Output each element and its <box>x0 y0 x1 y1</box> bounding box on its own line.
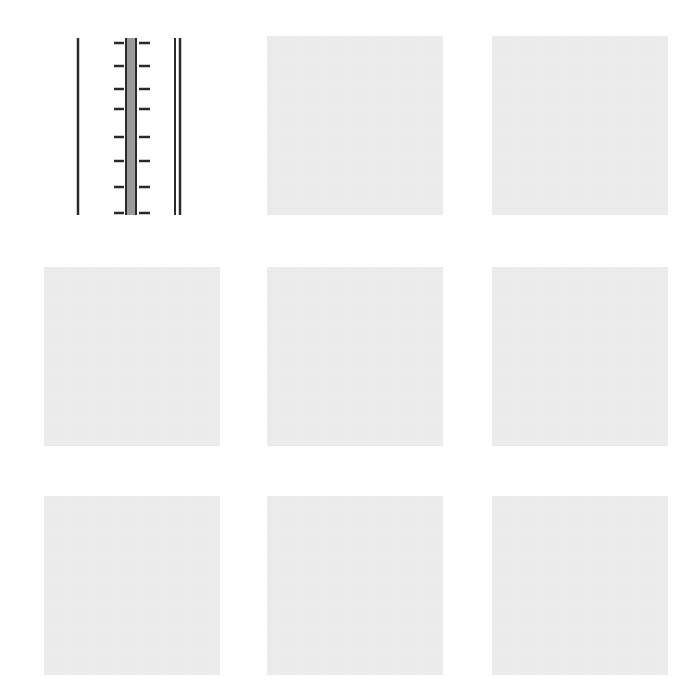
tile-r0-c2[interactable] <box>492 36 668 215</box>
tile-r1-c2[interactable] <box>492 267 668 446</box>
tile-r2-c2[interactable] <box>492 496 668 675</box>
ruler-lines-icon <box>44 36 220 215</box>
tile-r1-c0[interactable] <box>44 267 220 446</box>
tile-r0-c1[interactable] <box>267 36 443 215</box>
tile-r2-c1[interactable] <box>267 496 443 675</box>
tile-r2-c0[interactable] <box>44 496 220 675</box>
tile-r1-c1[interactable] <box>267 267 443 446</box>
tile-r0-c0[interactable] <box>44 36 220 215</box>
